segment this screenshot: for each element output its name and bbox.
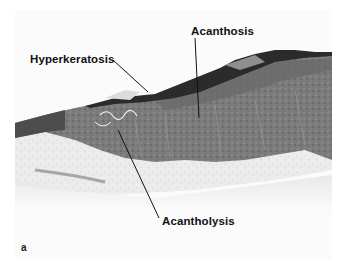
acantholysis-label: Acantholysis bbox=[162, 215, 235, 227]
hyperkeratosis-label: Hyperkeratosis bbox=[30, 53, 115, 65]
acanthosis-label: Acanthosis bbox=[191, 25, 254, 37]
panel-letter: a bbox=[21, 242, 27, 253]
